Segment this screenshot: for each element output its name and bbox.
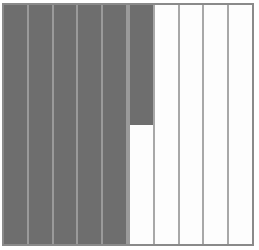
- unshaded-strip: [204, 5, 229, 244]
- unshaded-strip: [229, 5, 252, 244]
- shaded-strip: [54, 5, 79, 244]
- shaded-strip: [103, 5, 128, 244]
- unshaded-strip: [155, 5, 180, 244]
- unshaded-strip: [180, 5, 205, 244]
- shaded-strip: [4, 5, 29, 244]
- fraction-grid: [2, 3, 254, 246]
- partial-fill: [130, 5, 153, 125]
- shaded-strip: [78, 5, 103, 244]
- partially-shaded-strip: [128, 5, 155, 244]
- shaded-strip: [29, 5, 54, 244]
